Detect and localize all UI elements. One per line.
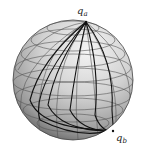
label-qb-sub: b xyxy=(122,137,126,145)
label-qa: qa xyxy=(77,6,88,18)
label-qb: qb xyxy=(116,133,127,145)
point-qa-marker xyxy=(85,21,87,23)
label-qa-sub: a xyxy=(83,10,87,18)
point-qb-marker xyxy=(112,130,114,132)
